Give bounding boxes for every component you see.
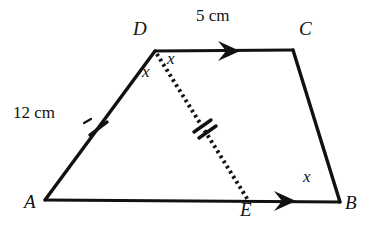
vertex-label-c: C: [299, 19, 312, 38]
vertex-label-e: E: [240, 200, 252, 219]
angle-x-at-b-label: x: [303, 168, 311, 185]
vertex-label-a: A: [24, 192, 36, 211]
vertex-label-d: D: [133, 19, 147, 38]
geometry-figure: [0, 0, 376, 242]
segment-dc: [155, 50, 293, 51]
side-ad-length-label: 12 cm: [13, 104, 55, 121]
angle-x-at-d-left-label: x: [142, 63, 150, 80]
angle-x-at-d-right-label: x: [167, 50, 175, 67]
figure-background: [0, 0, 376, 242]
side-dc-length-label: 5 cm: [196, 7, 230, 24]
vertex-label-b: B: [345, 193, 357, 212]
